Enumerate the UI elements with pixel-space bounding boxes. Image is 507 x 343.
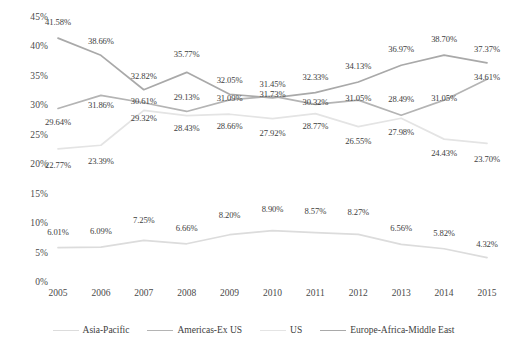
data-label: 31.09% — [208, 93, 252, 103]
legend-item[interactable]: Americas-Ex US — [147, 325, 242, 335]
data-label: 22.77% — [36, 160, 80, 170]
data-label: 32.82% — [122, 71, 166, 81]
data-label: 31.45% — [251, 79, 295, 89]
legend-label: Americas-Ex US — [177, 325, 242, 335]
data-label: 41.58% — [36, 17, 80, 27]
data-label: 31.05% — [422, 93, 466, 103]
data-label: 8.20% — [208, 210, 252, 220]
data-label: 34.13% — [336, 61, 380, 71]
legend-item[interactable]: US — [260, 325, 302, 335]
data-label: 29.13% — [165, 92, 209, 102]
data-label: 28.49% — [379, 94, 423, 104]
chart-legend: Asia-PacificAmericas-Ex USUSEurope-Afric… — [0, 321, 507, 339]
data-label: 6.56% — [379, 223, 423, 233]
data-label: 30.32% — [293, 97, 337, 107]
data-label: 6.01% — [36, 227, 80, 237]
data-label: 4.32% — [465, 239, 507, 249]
data-label: 37.37% — [465, 44, 507, 54]
data-label: 32.33% — [293, 72, 337, 82]
legend-label: Europe-Africa-Middle East — [350, 325, 454, 335]
legend-swatch-icon — [147, 330, 173, 331]
data-label: 28.66% — [208, 121, 252, 131]
legend-swatch-icon — [320, 330, 346, 331]
data-label: 28.43% — [165, 123, 209, 133]
legend-label: Asia-Pacific — [83, 325, 130, 335]
data-label: 30.61% — [122, 96, 166, 106]
data-label: 28.77% — [293, 121, 337, 131]
data-label: 27.92% — [251, 128, 295, 138]
legend-swatch-icon — [260, 330, 286, 331]
line-chart: 45%40%35%30%25%20%15%10%5%0% 20052006200… — [0, 0, 507, 343]
data-label: 31.05% — [336, 93, 380, 103]
legend-label: US — [290, 325, 302, 335]
data-label: 6.66% — [165, 223, 209, 233]
data-label: 23.70% — [465, 154, 507, 164]
data-label: 8.90% — [251, 204, 295, 214]
data-label: 5.82% — [422, 228, 466, 238]
data-label: 8.27% — [336, 207, 380, 217]
data-label: 35.77% — [165, 49, 209, 59]
data-label: 29.64% — [36, 117, 80, 127]
data-label: 31.86% — [79, 100, 123, 110]
legend-swatch-icon — [53, 330, 79, 331]
data-label: 34.61% — [465, 72, 507, 82]
legend-item[interactable]: Europe-Africa-Middle East — [320, 325, 454, 335]
data-label: 26.55% — [336, 136, 380, 146]
data-label: 23.39% — [79, 156, 123, 166]
data-label: 38.70% — [422, 34, 466, 44]
legend-item[interactable]: Asia-Pacific — [53, 325, 130, 335]
data-label: 31.73% — [251, 89, 295, 99]
data-label: 27.98% — [379, 127, 423, 137]
data-label: 24.43% — [422, 148, 466, 158]
series-lines — [0, 0, 507, 343]
data-label: 6.09% — [79, 226, 123, 236]
data-label: 7.25% — [122, 215, 166, 225]
data-label: 32.05% — [208, 75, 252, 85]
data-label: 36.97% — [379, 44, 423, 54]
data-label: 38.66% — [79, 36, 123, 46]
data-label: 8.57% — [293, 206, 337, 216]
data-label: 29.32% — [122, 113, 166, 123]
